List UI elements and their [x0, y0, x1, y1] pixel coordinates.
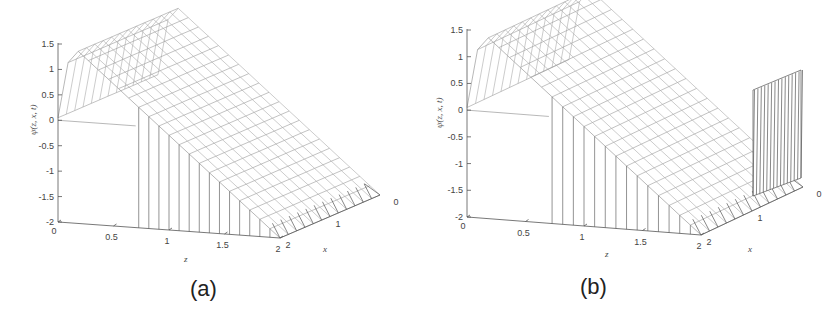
depth-tick-label: 1: [335, 219, 340, 229]
caption-a: (a): [190, 276, 217, 302]
z-tick-label: -0.5: [447, 132, 463, 142]
x-tick-label: 1: [579, 232, 584, 242]
ylabel-b: x: [747, 244, 752, 254]
xlabel-a: z: [183, 254, 188, 264]
x-tick-label: 0: [460, 221, 465, 231]
depth-tick-label: 1: [757, 213, 762, 223]
depth-tick-label: 0: [816, 189, 821, 199]
z-tick-label: 0: [49, 115, 54, 125]
caption-b: (b): [580, 274, 607, 300]
z-tick-label: -1.5: [447, 185, 463, 195]
x-tick-label: 1: [164, 236, 169, 246]
depth-axis-b: [701, 187, 803, 235]
x-tick-label: 0.5: [517, 228, 530, 238]
zlabel-a: ψ(z, x, t): [28, 104, 38, 135]
zlabel-b: ψ(z, x, t): [434, 97, 444, 128]
depth-tick-label: 2: [285, 240, 290, 250]
x-tick-label: 2: [696, 241, 701, 251]
depth-axis-a: [280, 195, 380, 238]
panel-a: 1.510.50-0.5-1-1.5-200.511.52210 ψ(z, x,…: [0, 0, 410, 312]
z-tick-label: 1: [49, 64, 54, 74]
spike-surface: [753, 70, 803, 196]
z-tick-label: 1: [458, 52, 463, 62]
z-tick-label: -1.5: [38, 192, 54, 202]
x-tick-label: 0.5: [105, 232, 118, 242]
z-tick-label: 0.5: [450, 78, 463, 88]
depth-tick-label: 0: [393, 197, 398, 207]
z-tick-label: 0: [458, 105, 463, 115]
z-tick-label: -0.5: [38, 141, 54, 151]
surface-plot-b: 1.510.50-0.5-1-1.5-200.511.52210 ψ(z, x,…: [405, 0, 831, 312]
z-tick-label: -1: [46, 166, 54, 176]
ylabel-a: x: [322, 244, 327, 254]
xlabel-b: z: [604, 249, 609, 259]
depth-tick-label: 2: [706, 237, 711, 247]
x-tick-label: 1.5: [216, 240, 229, 250]
mesh-a: [58, 8, 380, 238]
x-tick-label: 0: [51, 226, 56, 236]
z-tick-label: 0.5: [41, 90, 54, 100]
z-tick-label: 1.5: [450, 25, 463, 35]
x-tick-label: 1.5: [634, 237, 647, 247]
mesh-b: [467, 0, 803, 235]
z-tick-label: 1.5: [41, 39, 54, 49]
x-tick-label: 2: [275, 244, 280, 254]
z-tick-label: -1: [455, 159, 463, 169]
panel-b: 1.510.50-0.5-1-1.5-200.511.52210 ψ(z, x,…: [405, 0, 831, 312]
surface-plot-a: 1.510.50-0.5-1-1.5-200.511.52210 ψ(z, x,…: [0, 0, 410, 312]
